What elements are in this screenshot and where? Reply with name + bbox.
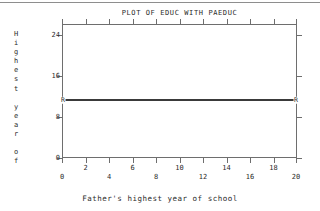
x-tick-bottom [203, 158, 204, 163]
x-tick-bottom [250, 158, 251, 163]
x-tick-bottom [133, 158, 134, 163]
y-axis-title-char: o [10, 148, 22, 157]
x-tick-label: 16 [246, 173, 254, 181]
x-tick-bottom [62, 158, 63, 163]
regression-line [62, 99, 297, 101]
top-divider-rule [0, 2, 320, 3]
y-tick-right [297, 35, 302, 36]
x-tick-label: 12 [199, 173, 207, 181]
x-tick-top [274, 19, 275, 24]
x-tick-top [296, 19, 297, 24]
x-tick-bottom [227, 158, 228, 163]
x-tick-top [227, 19, 228, 24]
x-tick-bottom [109, 158, 110, 163]
x-tick-label: 18 [269, 164, 277, 172]
r-marker-right: R [294, 97, 299, 104]
y-tick-label: 24 [52, 31, 60, 39]
x-tick-label: 2 [83, 164, 87, 172]
y-tick-label: 0 [56, 154, 60, 162]
y-axis-title-char: a [10, 121, 22, 130]
x-tick-label: 20 [292, 173, 300, 181]
x-tick-top [156, 19, 157, 24]
plot-area [62, 24, 297, 158]
x-tick-label: 14 [222, 164, 230, 172]
y-axis-title-char: g [10, 48, 22, 57]
x-tick-top [180, 19, 181, 24]
x-axis-title: Father's highest year of school [0, 194, 320, 203]
x-tick-label: 6 [130, 164, 134, 172]
y-axis-title-char: H [10, 30, 22, 39]
y-axis-title-char: e [10, 66, 22, 75]
x-tick-top [203, 19, 204, 24]
x-tick-bottom [274, 158, 275, 163]
y-axis-title-char: t [10, 85, 22, 94]
y-tick-label: 16 [52, 72, 60, 80]
x-tick-label: 0 [60, 173, 64, 181]
x-tick-top [62, 19, 63, 24]
x-tick-label: 8 [154, 173, 158, 181]
y-axis-title-char: y [10, 103, 22, 112]
x-tick-label: 10 [175, 164, 183, 172]
y-tick-label: 8 [56, 113, 60, 121]
y-axis-title: H i g h e s t y e a r o f [10, 30, 22, 166]
x-tick-label: 4 [107, 173, 111, 181]
y-tick-right [297, 76, 302, 77]
r-marker-left: R [61, 97, 66, 104]
x-tick-bottom [180, 158, 181, 163]
y-axis-title-char: r [10, 130, 22, 139]
x-tick-top [133, 19, 134, 24]
y-axis-title-char: i [10, 39, 22, 48]
y-tick-right [297, 117, 302, 118]
x-tick-bottom [86, 158, 87, 163]
x-tick-top [109, 19, 110, 24]
x-tick-top [250, 19, 251, 24]
y-tick-right [297, 158, 302, 159]
y-axis-title-char: h [10, 57, 22, 66]
y-axis-title-char: f [10, 157, 22, 166]
x-tick-bottom [156, 158, 157, 163]
x-tick-top [86, 19, 87, 24]
chart-title: PLOT OF EDUC WITH PAEDUC [62, 9, 297, 17]
y-axis-title-char: e [10, 112, 22, 121]
y-axis-title-char: s [10, 75, 22, 84]
